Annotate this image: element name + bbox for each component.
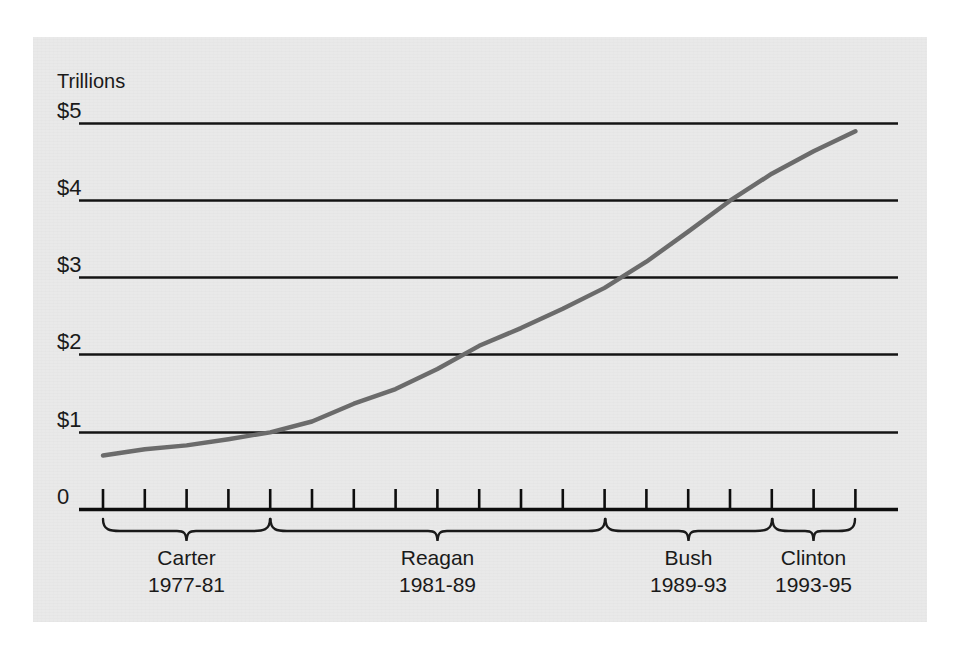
y-tick-label-4: $4 <box>57 175 81 200</box>
era-label-bush-years: 1989-93 <box>650 573 727 596</box>
y-tick-label-1: $1 <box>57 407 81 432</box>
y-tick-label-3: $3 <box>57 252 81 277</box>
unit-label: Trillions <box>57 70 125 92</box>
y-tick-label-2: $2 <box>57 329 81 354</box>
era-braces <box>103 519 855 541</box>
figure-canvas: Trillions $5 $4 $3 $2 $1 0 Carter 1977-8… <box>0 0 964 657</box>
era-label-reagan-name: Reagan <box>401 546 475 569</box>
x-axis-ticks <box>103 489 855 509</box>
era-label-reagan-years: 1981-89 <box>399 573 476 596</box>
brace-reagan <box>271 519 606 541</box>
debt-line-series <box>103 197 578 456</box>
era-label-clinton-name: Clinton <box>781 546 846 569</box>
era-label-carter-years: 1977-81 <box>148 573 225 596</box>
brace-bush <box>606 519 773 541</box>
debt-curve <box>103 131 855 455</box>
era-label-clinton-years: 1993-95 <box>775 573 852 596</box>
y-tick-label-0: 0 <box>57 484 69 509</box>
y-tick-label-5: $5 <box>57 98 81 123</box>
era-label-bush-name: Bush <box>665 546 713 569</box>
era-label-carter-name: Carter <box>157 546 215 569</box>
brace-clinton <box>773 519 856 541</box>
brace-carter <box>103 519 270 541</box>
debt-line-chart: Trillions $5 $4 $3 $2 $1 0 Carter 1977-8… <box>0 0 964 657</box>
